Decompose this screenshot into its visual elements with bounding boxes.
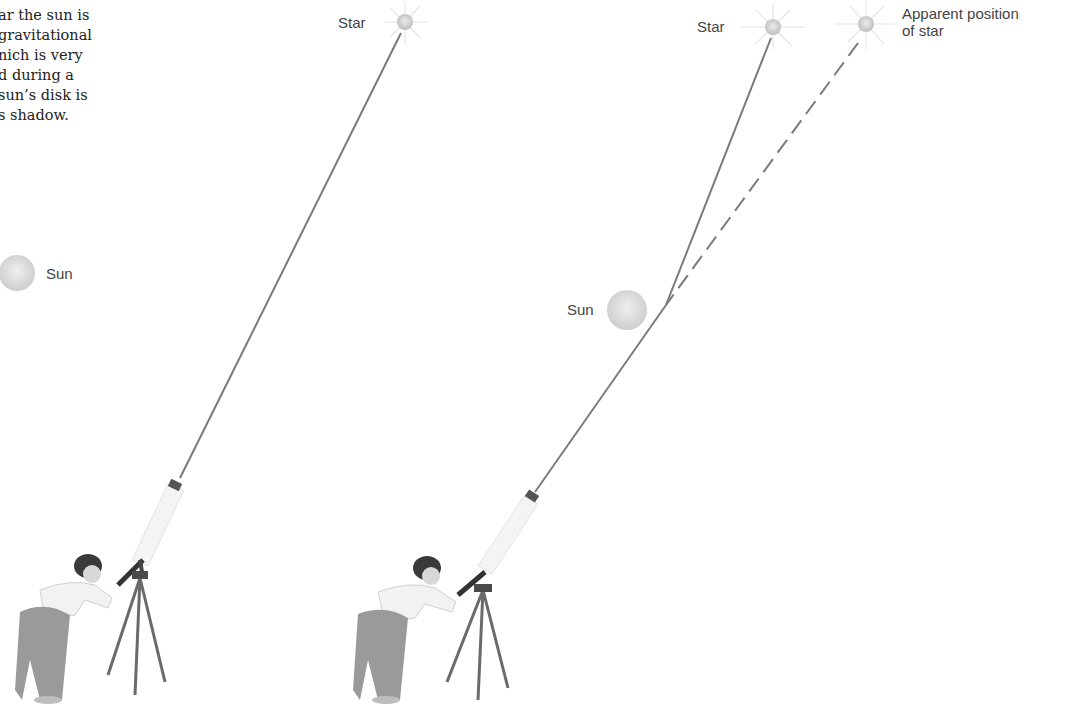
left-star-label: Star — [338, 14, 366, 31]
left-telescope — [108, 479, 184, 695]
left-observer — [15, 554, 112, 704]
left-star — [385, 2, 428, 44]
right-actual-ray — [666, 38, 771, 305]
right-star-apparent — [835, 0, 895, 50]
right-sun-label: Sun — [567, 301, 594, 318]
right-sun — [607, 290, 647, 330]
right-bent-ray — [535, 305, 666, 492]
right-star-label: Star — [697, 18, 725, 35]
apparent-label-line1: Apparent position — [902, 5, 1019, 22]
right-star-actual — [740, 4, 805, 50]
apparent-position-label: Apparent position of star — [902, 5, 1019, 39]
left-sun-label: Sun — [46, 265, 73, 282]
diagram-canvas — [0, 0, 1080, 706]
apparent-label-line2: of star — [902, 22, 1019, 39]
right-observer — [353, 556, 456, 704]
right-apparent-ray — [666, 43, 858, 305]
right-telescope — [447, 489, 539, 700]
left-light-ray — [180, 33, 401, 478]
left-sun — [0, 255, 35, 291]
